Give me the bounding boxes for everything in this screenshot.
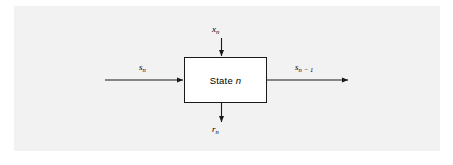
output-state-subscript: n − 1 xyxy=(299,66,314,73)
state-block-label: State n xyxy=(210,75,242,86)
state-block-label-text: State xyxy=(210,75,233,86)
input-drive-subscript: n xyxy=(216,28,219,35)
output-result-symbol: r xyxy=(212,124,216,134)
output-result-subscript: n xyxy=(216,128,219,135)
figure-root: State n sn xn sn − 1 rn xyxy=(0,0,453,165)
output-state-symbol: s xyxy=(295,62,299,72)
state-block: State n xyxy=(184,57,267,103)
input-state-subscript: n xyxy=(143,66,146,73)
output-result-label: rn xyxy=(212,125,219,134)
input-state-label: sn xyxy=(139,63,146,72)
input-state-symbol: s xyxy=(139,62,143,72)
output-state-label: sn − 1 xyxy=(295,63,313,72)
input-drive-label: xn xyxy=(212,25,219,34)
state-block-label-variable: n xyxy=(236,75,241,86)
